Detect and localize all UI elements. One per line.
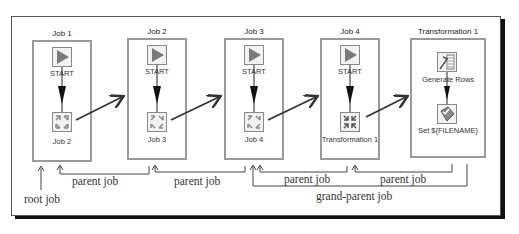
parent-job-annotation: parent job <box>174 175 220 187</box>
parent-job-annotation: parent job <box>72 175 118 187</box>
root-job-annotation: root job <box>24 193 60 205</box>
connectors <box>0 0 519 234</box>
parent-job-annotation: parent job <box>380 173 426 185</box>
grand-parent-job-annotation: grand-parent job <box>316 190 392 202</box>
parent-job-annotation: parent job <box>284 173 330 185</box>
